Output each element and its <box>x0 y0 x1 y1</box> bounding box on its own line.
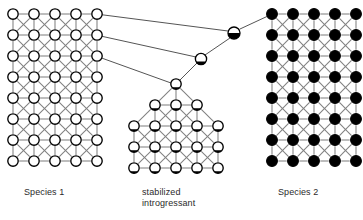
species-1-node <box>92 114 102 124</box>
species-2-node <box>351 72 362 83</box>
introgressant-node <box>192 121 202 131</box>
species-1-node <box>50 9 60 19</box>
introgressant-node <box>150 100 160 110</box>
species-1-node <box>92 72 102 82</box>
species-1-node <box>8 30 18 40</box>
species-1-node <box>8 114 18 124</box>
species-1-node <box>50 156 60 166</box>
species-1-node <box>29 9 39 19</box>
species-2-node <box>330 9 341 20</box>
species-1-node <box>71 51 81 61</box>
species-1-node <box>92 156 102 166</box>
species-2-node <box>288 135 299 146</box>
species-1-node <box>8 51 18 61</box>
species-2-node <box>351 51 362 62</box>
species-2-node <box>288 51 299 62</box>
introgressant-node <box>150 121 160 131</box>
species-2-node <box>330 51 341 62</box>
species-2-node <box>309 93 320 104</box>
species-1-node <box>50 30 60 40</box>
species-2-node <box>351 135 362 146</box>
introgressant-node <box>129 121 139 131</box>
species-1-node <box>71 156 81 166</box>
species-2-node <box>330 72 341 83</box>
backcross-1-node <box>195 53 206 64</box>
species-1-node <box>71 114 81 124</box>
introgressant-node <box>150 142 160 152</box>
species-1-node <box>71 72 81 82</box>
species-1-node <box>92 93 102 103</box>
species-2-node <box>267 135 278 146</box>
species-2-node <box>330 30 341 41</box>
caption-species-1: Species 1 <box>24 187 64 198</box>
introgressant-node <box>171 163 181 173</box>
species-1-node <box>50 114 60 124</box>
species-2-node <box>267 72 278 83</box>
species-2-node <box>288 114 299 125</box>
species-2-node <box>330 114 341 125</box>
species-2-node <box>330 135 341 146</box>
species-1-node <box>92 9 102 19</box>
species-2-node <box>267 93 278 104</box>
species-2-node <box>309 114 320 125</box>
species-1-node <box>8 93 18 103</box>
species-2-node <box>288 30 299 41</box>
species-2-node <box>267 51 278 62</box>
species-1-node <box>92 135 102 145</box>
caption-species-2: Species 2 <box>278 187 318 198</box>
species-2-node <box>309 30 320 41</box>
introgressant-node <box>171 121 181 131</box>
species-1-node <box>50 51 60 61</box>
species-2-node <box>351 156 362 167</box>
species-1-node <box>29 51 39 61</box>
species-2-node <box>267 30 278 41</box>
species-1-node <box>71 93 81 103</box>
species-2-node <box>309 156 320 167</box>
species-2-node <box>309 135 320 146</box>
species-2-node <box>309 72 320 83</box>
species-2-node <box>288 156 299 167</box>
introgressant-node <box>213 121 223 131</box>
species-2-node <box>351 114 362 125</box>
species-1-node <box>50 93 60 103</box>
introgressant-node <box>171 79 181 89</box>
introgressant-node <box>129 142 139 152</box>
species-1-node <box>71 9 81 19</box>
species-1-node <box>29 156 39 166</box>
species-2-node <box>351 9 362 20</box>
introgressant-node <box>192 142 202 152</box>
species-2-node <box>288 72 299 83</box>
introgressant-node <box>192 163 202 173</box>
species-1-node <box>50 135 60 145</box>
species-2-node <box>351 30 362 41</box>
introgressant-node <box>150 163 160 173</box>
species-2-node <box>330 93 341 104</box>
species-1-node <box>29 114 39 124</box>
introgressant-node <box>192 100 202 110</box>
species-1-node <box>92 51 102 61</box>
species-2-node <box>309 9 320 20</box>
hybrid-f1-node <box>228 27 240 39</box>
species-1-node <box>71 135 81 145</box>
species-1-node <box>50 72 60 82</box>
introgressant-node <box>213 142 223 152</box>
species-2-node <box>267 156 278 167</box>
species-1-node <box>8 135 18 145</box>
species-2-node <box>309 51 320 62</box>
species-1-node <box>8 72 18 82</box>
species-2-node <box>330 156 341 167</box>
species-2-node <box>267 114 278 125</box>
species-1-node <box>29 135 39 145</box>
species-1-node <box>71 30 81 40</box>
species-2-node <box>288 9 299 20</box>
introgressant-node <box>171 100 181 110</box>
introgressant-node <box>129 163 139 173</box>
species-1-node <box>29 72 39 82</box>
species-1-node <box>29 93 39 103</box>
species-2-node <box>288 93 299 104</box>
species-2-node <box>351 93 362 104</box>
species-1-node <box>8 156 18 166</box>
species-1-node <box>29 30 39 40</box>
introgressant-node <box>171 142 181 152</box>
caption-stabilized-introgressant: stabilized introgressant <box>142 187 195 209</box>
